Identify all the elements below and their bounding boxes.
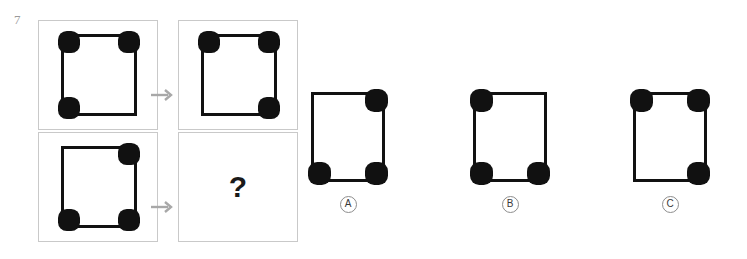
answer-options: A B C bbox=[0, 0, 747, 259]
answer-option-a[interactable]: A bbox=[311, 92, 385, 213]
option-letter: B bbox=[502, 196, 519, 213]
corner-dot-bottom-left bbox=[470, 162, 493, 185]
option-letter: C bbox=[662, 196, 679, 213]
corner-dot-top-left bbox=[630, 89, 653, 112]
option-letter: A bbox=[340, 196, 357, 213]
corner-dot-bottom-right bbox=[687, 162, 710, 185]
option-figure-square bbox=[311, 92, 385, 182]
option-figure-square bbox=[633, 92, 707, 182]
option-figure-square bbox=[473, 92, 547, 182]
option-label-a: A bbox=[311, 196, 385, 213]
corner-dot-top-left bbox=[470, 89, 493, 112]
answer-option-b[interactable]: B bbox=[473, 92, 547, 213]
option-label-c: C bbox=[633, 196, 707, 213]
corner-dot-bottom-left bbox=[308, 162, 331, 185]
corner-dot-top-right bbox=[365, 89, 388, 112]
corner-dot-bottom-right bbox=[527, 162, 550, 185]
answer-option-c[interactable]: C bbox=[633, 92, 707, 213]
corner-dot-bottom-right bbox=[365, 162, 388, 185]
option-label-b: B bbox=[473, 196, 547, 213]
corner-dot-top-right bbox=[687, 89, 710, 112]
